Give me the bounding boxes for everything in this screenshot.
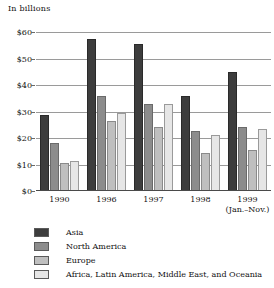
bar-group xyxy=(40,32,80,191)
bar xyxy=(107,121,116,191)
legend-item: Africa, Latin America, Middle East, and … xyxy=(34,268,262,281)
bar xyxy=(117,113,126,191)
bar-chart: In billions $60$50$40$30$20$10$0 1990199… xyxy=(0,0,273,288)
x-axis-tick-sublabel: (Jan.–Nov.) xyxy=(213,205,274,214)
legend-item-label: North America xyxy=(66,242,126,251)
legend-swatch-icon xyxy=(34,242,49,251)
axis-baseline xyxy=(36,190,271,191)
bar xyxy=(258,129,267,191)
bar xyxy=(154,127,163,191)
bar-group xyxy=(181,32,221,191)
legend-swatch-icon xyxy=(34,256,49,265)
bar xyxy=(40,115,49,191)
bar xyxy=(60,163,69,191)
bar xyxy=(97,96,106,191)
y-axis-tick-mark xyxy=(31,85,35,86)
chart-axis-title: In billions xyxy=(8,4,51,13)
y-axis-tick-mark xyxy=(31,138,35,139)
bar-group xyxy=(87,32,127,191)
chart-legend: AsiaNorth AmericaEuropeAfrica, Latin Ame… xyxy=(34,226,262,281)
bar xyxy=(144,104,153,191)
legend-item-label: Europe xyxy=(66,256,96,265)
y-axis-tick-label: $60 xyxy=(2,28,32,37)
y-axis-tick-label: $50 xyxy=(2,54,32,63)
y-axis-tick-mark xyxy=(31,191,35,192)
legend-swatch-icon xyxy=(34,270,49,279)
bar xyxy=(164,104,173,191)
bar xyxy=(211,135,220,191)
x-axis-tick-label: 1999 xyxy=(213,195,274,204)
bar xyxy=(228,72,237,191)
y-axis-tick-label: $30 xyxy=(2,107,32,116)
bar xyxy=(87,39,96,191)
legend-item-label: Africa, Latin America, Middle East, and … xyxy=(66,270,262,279)
legend-item: North America xyxy=(34,240,262,253)
y-axis-tick-mark xyxy=(31,59,35,60)
y-axis-tick-label: $20 xyxy=(2,134,32,143)
bar-group xyxy=(228,32,268,191)
bar xyxy=(201,153,210,191)
y-axis-tick-mark xyxy=(31,112,35,113)
legend-item: Asia xyxy=(34,226,262,239)
legend-swatch-icon xyxy=(34,228,49,237)
bar xyxy=(191,131,200,191)
bar xyxy=(181,96,190,191)
y-axis-tick-label: $40 xyxy=(2,81,32,90)
y-axis-tick-mark xyxy=(31,32,35,33)
plot-area xyxy=(36,32,271,191)
legend-item: Europe xyxy=(34,254,262,267)
bar-group xyxy=(134,32,174,191)
y-axis-tick-mark xyxy=(31,165,35,166)
bar xyxy=(238,127,247,191)
bar xyxy=(134,44,143,191)
bar xyxy=(50,143,59,191)
bar xyxy=(248,150,257,191)
legend-item-label: Asia xyxy=(66,228,83,237)
bar xyxy=(70,161,79,191)
y-axis-tick-label: $10 xyxy=(2,160,32,169)
